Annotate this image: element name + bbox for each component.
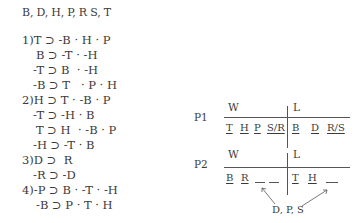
p2-note: D, P, S (272, 203, 304, 217)
arrows-icon (0, 0, 355, 223)
